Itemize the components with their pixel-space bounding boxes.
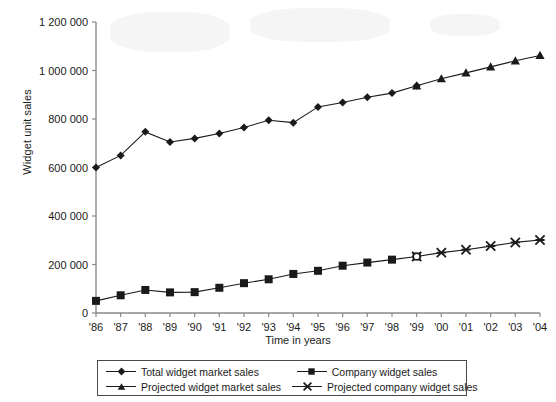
legend-label: Total widget market sales — [141, 366, 259, 378]
square-marker-icon — [339, 262, 347, 270]
y-axis-tick-label: 1 000 000 — [39, 65, 88, 77]
diamond-marker-icon — [106, 366, 136, 378]
series-projected-company-widget-sales — [412, 235, 545, 261]
chart-container: Widget unit sales Time in years 0200 000… — [0, 0, 556, 402]
plot-area: 0200 000400 000600 000800 0001 000 0001 … — [0, 0, 556, 340]
x-axis-tick-label: '91 — [212, 321, 226, 333]
x-axis-tick-label: '01 — [459, 321, 473, 333]
diamond-marker-icon — [191, 134, 199, 142]
x-axis-tick-label: '86 — [89, 321, 103, 333]
x-marker-icon — [437, 248, 446, 257]
x-axis-tick-label: '87 — [113, 321, 127, 333]
diamond-marker-icon — [339, 99, 347, 107]
y-axis-tick-label: 200 000 — [48, 259, 88, 271]
x-marker-icon — [461, 245, 470, 254]
diamond-marker-icon — [363, 93, 371, 101]
square-marker-icon — [388, 256, 396, 264]
square-marker-icon — [92, 297, 100, 305]
legend-entry-company-widget-sales[interactable]: Company widget sales — [297, 366, 466, 378]
series-line — [417, 240, 540, 257]
series-total-widget-market-sales — [92, 82, 421, 172]
y-axis-tick-label: 400 000 — [48, 210, 88, 222]
legend-label: Projected company widget sales — [327, 381, 478, 393]
legend-entry-projected-company-widget-sales[interactable]: Projected company widget sales — [292, 381, 466, 393]
x-axis-tick-label: '90 — [187, 321, 201, 333]
series-company-widget-sales — [92, 252, 421, 304]
y-axis-tick-label: 0 — [82, 307, 88, 319]
x-axis-tick-label: '93 — [261, 321, 275, 333]
square-marker-icon — [166, 288, 174, 296]
projection-start-marker-icon — [413, 253, 419, 259]
square-marker-icon — [117, 291, 125, 299]
square-marker-icon — [265, 275, 273, 283]
diamond-marker-icon — [240, 123, 248, 131]
x-axis-tick-label: '88 — [138, 321, 152, 333]
triangle-marker-icon — [106, 381, 136, 393]
x-marker-icon — [292, 381, 322, 393]
series-projected-widget-market-sales — [412, 51, 545, 90]
x-axis-tick-label: '94 — [286, 321, 300, 333]
x-marker-icon — [535, 235, 544, 244]
square-marker-icon — [314, 267, 322, 275]
x-axis-tick-label: '92 — [237, 321, 251, 333]
square-marker-icon — [297, 366, 327, 378]
legend-row: Projected widget market sales Projected … — [98, 379, 466, 394]
chart-legend: Total widget market sales Company widget… — [97, 360, 467, 396]
square-marker-icon — [191, 288, 199, 296]
legend-entry-projected-widget-market-sales[interactable]: Projected widget market sales — [98, 381, 292, 393]
square-marker-icon — [141, 286, 149, 294]
x-marker-icon — [486, 241, 495, 250]
diamond-marker-icon — [388, 89, 396, 97]
x-axis-tick-label: '95 — [311, 321, 325, 333]
y-axis-tick-label: 1 200 000 — [39, 16, 88, 28]
x-axis-tick-label: '99 — [409, 321, 423, 333]
x-marker-icon — [511, 238, 520, 247]
diamond-marker-icon — [166, 138, 174, 146]
legend-label: Projected widget market sales — [141, 381, 281, 393]
x-axis-tick-label: '04 — [533, 321, 547, 333]
triangle-marker-icon — [535, 51, 544, 59]
legend-row: Total widget market sales Company widget… — [98, 364, 466, 379]
x-axis-tick-label: '89 — [163, 321, 177, 333]
legend-label: Company widget sales — [332, 366, 438, 378]
diamond-marker-icon — [92, 164, 100, 172]
square-marker-icon — [240, 279, 248, 287]
y-axis-tick-label: 600 000 — [48, 162, 88, 174]
square-marker-icon — [289, 270, 297, 278]
square-marker-icon — [363, 259, 371, 267]
diamond-marker-icon — [289, 119, 297, 127]
x-axis-tick-label: '98 — [385, 321, 399, 333]
x-axis-tick-label: '97 — [360, 321, 374, 333]
diamond-marker-icon — [215, 130, 223, 138]
x-axis-tick-label: '02 — [483, 321, 497, 333]
diamond-marker-icon — [314, 103, 322, 111]
square-marker-icon — [215, 284, 223, 292]
y-axis-tick-label: 800 000 — [48, 113, 88, 125]
series-line — [417, 56, 540, 86]
legend-entry-total-widget-market-sales[interactable]: Total widget market sales — [98, 366, 297, 378]
x-axis-tick-label: '00 — [434, 321, 448, 333]
x-axis-tick-label: '03 — [508, 321, 522, 333]
x-axis-tick-label: '96 — [335, 321, 349, 333]
diamond-marker-icon — [265, 116, 273, 124]
